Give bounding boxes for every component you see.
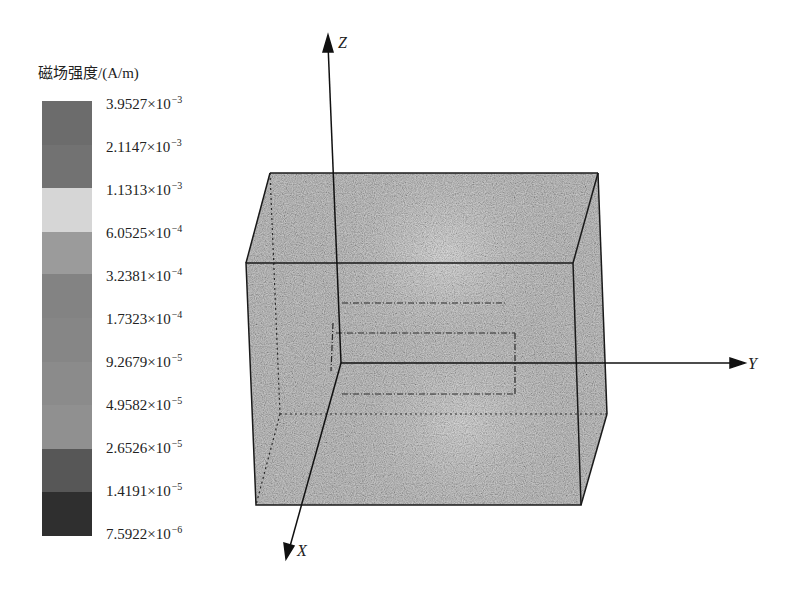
field-volume	[246, 173, 607, 505]
x-axis-label: X	[297, 542, 307, 560]
x-axis-arrow-icon	[284, 543, 294, 559]
z-axis-label: Z	[338, 34, 347, 52]
y-axis-arrow-icon	[730, 358, 745, 368]
field-box-plot	[0, 0, 798, 596]
z-axis-arrow-icon	[323, 35, 333, 52]
y-axis-label: Y	[748, 355, 757, 373]
